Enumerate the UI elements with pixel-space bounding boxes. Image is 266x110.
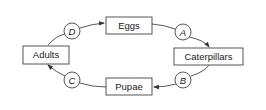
edge-a-to-caterpillars — [189, 37, 209, 47]
transition-a: A — [175, 24, 191, 40]
edge-caterpillars-to-b — [191, 65, 209, 76]
transition-b-label: B — [180, 75, 187, 86]
stage-adults-label: Adults — [33, 49, 60, 60]
edge-adults-to-d — [48, 34, 65, 45]
edge-d-to-eggs — [80, 23, 104, 28]
transition-d-label: D — [69, 26, 76, 37]
edge-eggs-to-a — [152, 24, 175, 29]
transition-b: B — [175, 72, 191, 88]
transition-d: D — [64, 23, 80, 39]
stage-caterpillars-label: Caterpillars — [184, 51, 232, 62]
stage-eggs-label: Eggs — [118, 20, 140, 31]
transition-a-label: A — [179, 27, 186, 38]
transition-c-label: C — [69, 75, 76, 86]
stage-pupae-label: Pupae — [115, 81, 142, 92]
stage-eggs: Eggs — [106, 17, 152, 34]
edge-pupae-to-c — [80, 83, 106, 87]
stage-adults: Adults — [23, 46, 69, 64]
transition-c: C — [64, 72, 80, 88]
edge-b-to-pupae — [154, 84, 176, 87]
stage-pupae: Pupae — [106, 78, 152, 95]
stage-caterpillars: Caterpillars — [174, 48, 243, 65]
life-cycle-diagram: Eggs Caterpillars Pupae Adults D A B C — [0, 0, 266, 110]
edge-c-to-adults — [48, 65, 65, 76]
